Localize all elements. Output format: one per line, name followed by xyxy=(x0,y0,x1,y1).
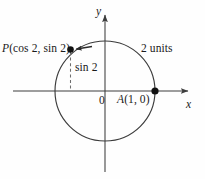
figure-canvas xyxy=(0,0,205,179)
unit-circle-figure: P(cos 2, sin 2) 2 units sin 2 0 A(1, 0) … xyxy=(0,0,205,179)
arc-length-label: 2 units xyxy=(141,43,173,55)
point-p-label: P(cos 2, sin 2) xyxy=(2,43,70,55)
y-axis-label: y xyxy=(96,6,101,18)
x-axis-label: x xyxy=(186,99,191,111)
sine-segment-label: sin 2 xyxy=(75,62,98,74)
point-p-coords: (cos 2, sin 2) xyxy=(9,42,70,54)
origin-label: 0 xyxy=(99,95,105,107)
point-a-marker xyxy=(151,87,158,94)
point-a-coords: (1, 0) xyxy=(124,93,150,105)
point-a-label: A(1, 0) xyxy=(117,94,150,106)
